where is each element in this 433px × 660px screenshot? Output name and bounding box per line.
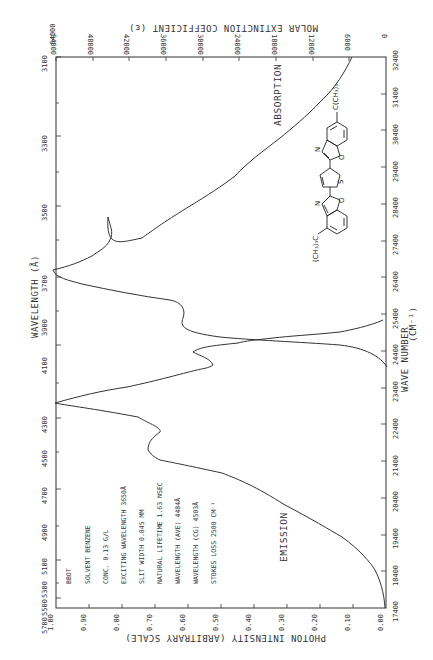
bottom-axis-ticks	[89, 604, 353, 608]
left-tick: 5500	[41, 599, 49, 616]
molecule-labels: C(CH₃)₃ N O S N O (CH₃)₃C	[312, 84, 346, 262]
bottom-tick: 0.30	[278, 614, 286, 631]
annotation-exciting-wavelength: EXCITING WAVELENGTH 3650Å	[119, 486, 128, 584]
molecule-structure	[318, 112, 347, 234]
right-tick: 18400	[392, 565, 400, 586]
left-axis-tick-labels: 3100 3300 3500 3700 3900 4100 4300 4500 …	[41, 55, 49, 634]
bottom-tick: 0.50	[212, 614, 220, 631]
bottom-tick: 0.90	[80, 614, 88, 631]
right-tick: 31400	[392, 87, 400, 108]
right-tick: 19400	[392, 528, 400, 549]
top-tick: 30000	[196, 34, 204, 55]
top-tick: 12000	[307, 34, 315, 55]
annotation-slit-width: SLIT WIDTH 0.045 MM	[138, 510, 146, 584]
bottom-tick: 0.70	[146, 614, 154, 631]
annotation-conc: CONC. 0.13 G/L	[102, 529, 110, 584]
right-tick: 29400	[392, 161, 400, 182]
bottom-tick: 0.00	[377, 614, 385, 631]
left-tick: 3900	[41, 319, 49, 336]
top-tick: 6000	[343, 34, 351, 51]
emission-label: EMISSION	[278, 512, 289, 562]
annotation-wavelength-ave: WAVELENGTH (AVE) 4484Å	[173, 498, 182, 584]
left-tick: 3500	[41, 204, 49, 221]
right-tick: 28400	[392, 197, 400, 218]
right-tick: 22400	[392, 418, 400, 439]
bottom-axis-tick-labels: 1.00 0.90 0.80 0.70 0.60 0.50 0.40 0.30 …	[47, 614, 385, 631]
right-axis-title-unit: (CM⁻¹)	[408, 306, 418, 342]
left-axis-title: WAVELENGTH (Å)	[29, 255, 40, 338]
top-tick: 0	[380, 34, 388, 38]
left-axis-ticks	[56, 57, 61, 598]
right-tick: 24400	[392, 344, 400, 365]
bottom-tick: 0.60	[179, 614, 187, 631]
atom-n2: N	[314, 201, 322, 206]
right-tick: 21400	[392, 455, 400, 476]
annotation-natural-lifetime: NATURAL LIFETIME 1.63 NSEC	[156, 482, 164, 584]
left-tick: 4700	[41, 487, 49, 504]
left-tick: 5100	[41, 558, 49, 575]
right-tick: 26400	[392, 271, 400, 292]
right-tick: 17400	[392, 601, 400, 622]
tert-butyl-right: C(CH₃)₃	[332, 84, 340, 110]
top-axis-tick-labels-vertical: 54000 48000 42000 36000 30000 24000 1800…	[49, 34, 388, 55]
right-tick: 20400	[392, 491, 400, 512]
left-tick: 5300	[41, 581, 49, 598]
annotation-solvent: SOLVENT BENZENE	[84, 525, 92, 584]
left-tick: 4100	[41, 357, 49, 374]
right-tick: 32400	[392, 50, 400, 71]
left-tick: 3300	[41, 135, 49, 152]
bottom-tick: 1.00	[47, 614, 55, 631]
top-tick: 54000	[49, 34, 57, 55]
annotation-compound: BBOT	[65, 568, 73, 584]
absorption-label: ABSORPTION	[272, 64, 283, 126]
left-tick: 3700	[41, 275, 49, 292]
annotation-wavelength-cg: WAVELENGTH (CG) 4503Å	[191, 502, 200, 584]
top-tick: 36000	[159, 34, 167, 55]
top-axis-ticks	[56, 57, 349, 61]
atom-n1: N	[314, 147, 322, 152]
top-tick: 42000	[122, 34, 130, 55]
atom-o2: O	[338, 197, 346, 203]
tert-butyl-left: (CH₃)₃C	[312, 236, 320, 262]
right-tick: 30400	[392, 124, 400, 145]
top-tick: 18000	[270, 34, 278, 55]
right-axis-ticks	[381, 94, 386, 571]
top-axis-title: MOLAR EXTINCTION COEFFICIENT (ε)	[129, 23, 318, 33]
right-tick: 27400	[392, 234, 400, 255]
right-tick: 23400	[392, 381, 400, 402]
top-tick: 24000	[233, 34, 241, 55]
left-tick: 4300	[41, 416, 49, 433]
bottom-tick: 0.20	[311, 614, 319, 631]
bottom-tick: 0.80	[113, 614, 121, 631]
left-tick: 4900	[41, 524, 49, 541]
annotation-block: BBOT SOLVENT BENZENE CONC. 0.13 G/L EXCI…	[65, 482, 218, 584]
atom-o1: O	[338, 154, 346, 160]
bottom-tick: 0.40	[245, 614, 253, 631]
atom-s: S	[337, 179, 345, 184]
right-tick: 25400	[392, 308, 400, 329]
top-tick: 48000	[86, 34, 94, 55]
left-tick: 3100	[41, 55, 49, 72]
bottom-tick: 0.10	[344, 614, 352, 631]
spectrum-chart: 3100 3300 3500 3700 3900 4100 4300 4500 …	[0, 0, 433, 660]
right-axis-tick-labels: 32400 31400 30400 29400 28400 27400 2640…	[392, 50, 400, 622]
left-tick: 4500	[41, 450, 49, 467]
annotation-stokes-loss: STOKES LOSS 2500 CM⁻¹	[210, 502, 218, 584]
bottom-axis-title: PHOTON INTENSITY (ARBITRARY SCALE)	[125, 633, 326, 643]
